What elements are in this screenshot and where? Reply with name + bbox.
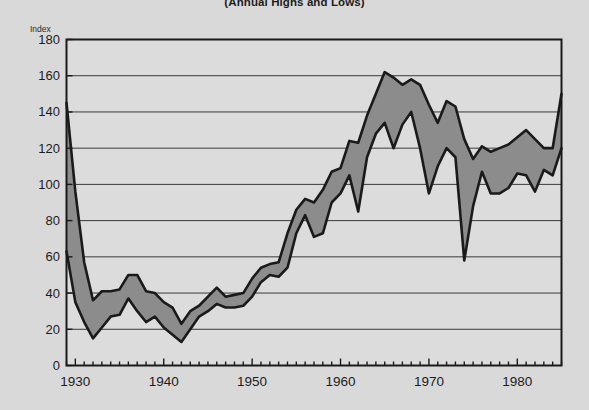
y-tick-label: 100 <box>14 178 60 191</box>
y-tick-label: 20 <box>14 323 60 336</box>
x-tick-label: 1970 <box>399 375 459 389</box>
x-tick-label: 1950 <box>222 375 282 389</box>
y-tick-label: 120 <box>14 142 60 155</box>
x-tick-label: 1980 <box>487 375 547 389</box>
y-tick-label: 40 <box>14 287 60 300</box>
y-tick-label: 140 <box>14 105 60 118</box>
y-tick-label: 60 <box>14 250 60 263</box>
x-tick-label: 1960 <box>311 375 371 389</box>
x-tick-label: 1940 <box>134 375 194 389</box>
y-tick-label: 180 <box>14 33 60 46</box>
y-tick-label: 0 <box>14 359 60 372</box>
y-tick-label: 160 <box>14 69 60 82</box>
y-tick-label: 80 <box>14 214 60 227</box>
chart-plot-area <box>0 0 589 410</box>
chart-figure: (Annual Highs and Lows) Index 0204060801… <box>0 0 589 410</box>
x-tick-label: 1930 <box>45 375 105 389</box>
